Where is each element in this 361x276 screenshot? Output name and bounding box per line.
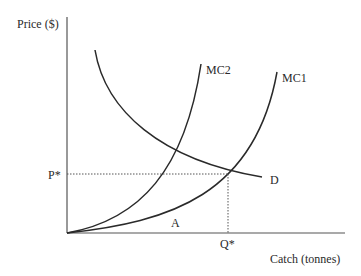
mc1-curve xyxy=(67,72,277,233)
y-axis-label: Price ($) xyxy=(17,18,59,30)
demand-label: D xyxy=(270,174,279,186)
p-star-label: P* xyxy=(48,169,61,181)
mc2-curve xyxy=(67,64,201,233)
area-a-label: A xyxy=(171,217,180,229)
mc1-label: MC1 xyxy=(282,72,307,84)
demand-curve xyxy=(95,50,262,177)
diagram-canvas xyxy=(0,0,361,276)
q-star-label: Q* xyxy=(220,238,235,250)
x-axis-label: Catch (tonnes) xyxy=(270,253,340,265)
mc2-label: MC2 xyxy=(206,64,231,76)
